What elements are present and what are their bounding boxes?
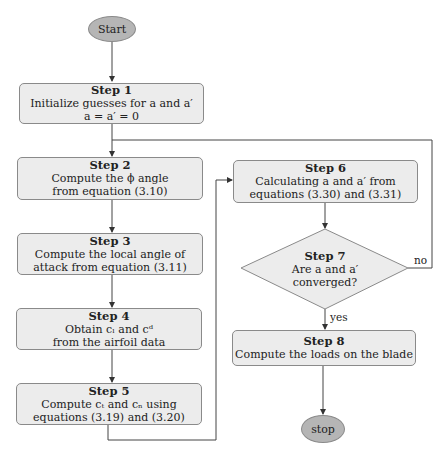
stop-terminal: stop bbox=[301, 415, 345, 443]
stop-label: stop bbox=[311, 423, 335, 436]
step4-line2: from the airfoil data bbox=[53, 336, 166, 349]
step2-box: Step 2 Compute the ϕ angle from equation… bbox=[17, 157, 203, 200]
step4-box: Step 4 Obtain cₗ and cᵈ from the airfoil… bbox=[16, 308, 202, 350]
step4-title: Step 4 bbox=[89, 310, 130, 323]
step6-box: Step 6 Calculating a and a′ from equatio… bbox=[233, 160, 418, 203]
step6-line1: Calculating a and a′ from bbox=[255, 175, 396, 188]
start-terminal: Start bbox=[88, 16, 136, 42]
step5-title: Step 5 bbox=[89, 385, 130, 398]
step2-line2: from equation (3.10) bbox=[52, 185, 167, 198]
step6-line2: equations (3.30) and (3.31) bbox=[250, 188, 402, 201]
step7-title: Step 7 bbox=[305, 250, 346, 263]
step5-line1: Compute cₜ and cₙ using bbox=[41, 398, 176, 411]
start-label: Start bbox=[98, 23, 126, 36]
no-label: no bbox=[414, 254, 427, 266]
step6-title: Step 6 bbox=[305, 162, 346, 175]
step1-title: Step 1 bbox=[91, 84, 132, 97]
step3-box: Step 3 Compute the local angle of attack… bbox=[17, 233, 203, 275]
step2-line1: Compute the ϕ angle bbox=[51, 172, 168, 185]
step8-box: Step 8 Compute the loads on the blade bbox=[232, 330, 416, 366]
step8-line1: Compute the loads on the blade bbox=[235, 348, 413, 361]
step3-line1: Compute the local angle of bbox=[35, 248, 185, 261]
step3-line2: attack from equation (3.11) bbox=[33, 261, 187, 274]
step1-box: Step 1 Initialize guesses for a and a′ a… bbox=[19, 83, 204, 124]
step8-title: Step 8 bbox=[304, 335, 345, 348]
step1-line2: a = a′ = 0 bbox=[84, 110, 139, 123]
step7-line1: Are a and a′ bbox=[292, 263, 359, 276]
step1-line1: Initialize guesses for a and a′ bbox=[30, 97, 193, 110]
step7-text: Step 7 Are a and a′ converged? bbox=[265, 248, 385, 290]
step4-line1: Obtain cₗ and cᵈ bbox=[65, 323, 153, 336]
step2-title: Step 2 bbox=[90, 159, 131, 172]
yes-label: yes bbox=[330, 311, 348, 323]
step7-line2: converged? bbox=[293, 276, 357, 289]
step5-box: Step 5 Compute cₜ and cₙ using equations… bbox=[16, 383, 202, 425]
step3-title: Step 3 bbox=[90, 235, 131, 248]
step5-line2: equations (3.19) and (3.20) bbox=[33, 411, 185, 424]
